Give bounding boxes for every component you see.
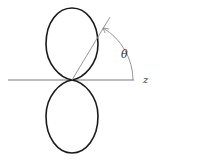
dipole-pattern-diagram: θ z	[0, 0, 204, 160]
direction-line	[72, 17, 110, 80]
lower-lobe	[46, 80, 98, 153]
theta-arc	[103, 28, 133, 80]
z-axis-label: z	[142, 74, 149, 85]
upper-lobe	[46, 8, 98, 80]
theta-label: θ	[121, 48, 128, 61]
